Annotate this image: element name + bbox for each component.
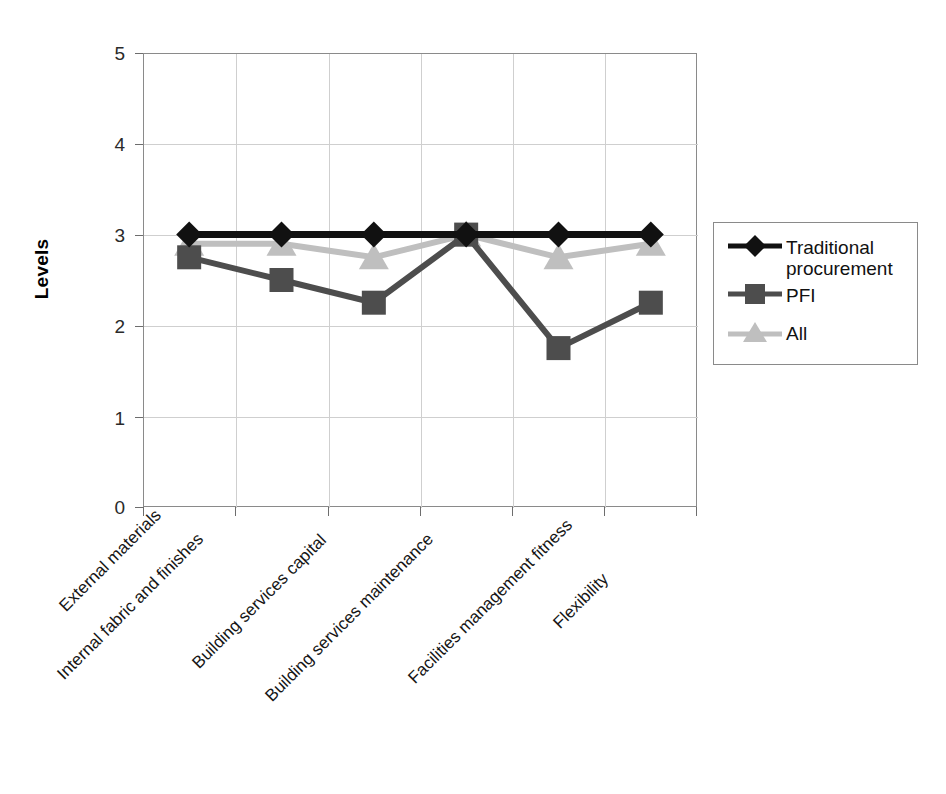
y-tick-label-3: 3 <box>95 226 125 245</box>
legend-label-all: All <box>786 323 807 344</box>
y-axis-title: Levels <box>31 209 53 329</box>
y-tick-label-5: 5 <box>95 44 125 63</box>
gridline-x-5 <box>605 54 606 508</box>
gridline-x-2 <box>329 54 330 508</box>
x-tick-mark-6 <box>696 507 697 516</box>
y-tick-mark-0 <box>135 507 143 508</box>
x-tick-mark-5 <box>604 507 605 516</box>
y-tick-label-1: 1 <box>95 409 125 428</box>
y-tick-label-2: 2 <box>95 317 125 336</box>
legend-entry-traditional[interactable]: Traditionalprocurement <box>726 237 893 280</box>
x-tick-mark-2 <box>328 507 329 516</box>
y-tick-mark-4 <box>135 144 143 145</box>
legend-marker-square-icon <box>726 281 784 307</box>
chart-container: Levels 5 4 3 2 1 0 External materials In… <box>0 0 946 794</box>
gridline-x-3 <box>421 54 422 508</box>
x-tick-mark-3 <box>420 507 421 516</box>
legend-marker-triangle-icon <box>726 319 784 345</box>
gridline-x-4 <box>513 54 514 508</box>
plot-area <box>143 53 697 507</box>
x-tick-mark-4 <box>512 507 513 516</box>
legend-label-traditional: Traditionalprocurement <box>786 237 893 280</box>
gridline-x-1 <box>236 54 237 508</box>
x-category-label-5: Flexibility <box>550 570 611 631</box>
y-tick-label-4: 4 <box>95 135 125 154</box>
legend-label-pfi: PFI <box>786 285 816 306</box>
y-tick-mark-2 <box>135 326 143 327</box>
y-tick-label-0: 0 <box>95 498 125 517</box>
legend-entry-pfi[interactable]: PFI <box>726 285 816 307</box>
y-tick-mark-1 <box>135 417 143 418</box>
y-tick-mark-5 <box>135 53 143 54</box>
legend-marker-diamond-icon <box>726 233 784 259</box>
legend: Traditionalprocurement PFI All <box>713 222 918 365</box>
y-tick-mark-3 <box>135 235 143 236</box>
legend-entry-all[interactable]: All <box>726 323 807 345</box>
x-tick-mark-1 <box>235 507 236 516</box>
